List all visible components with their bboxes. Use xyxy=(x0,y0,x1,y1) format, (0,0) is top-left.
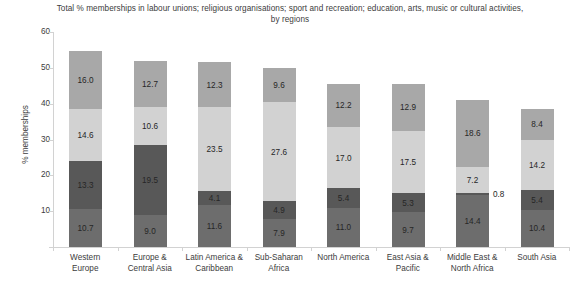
stacked-bar-chart: Total % memberships in labour unions; re… xyxy=(0,0,576,293)
bar-segment-value-label: 10.6 xyxy=(134,121,167,130)
bar-segment-value-label: 14.6 xyxy=(69,130,102,139)
bar-segment[interactable]: 9.0 xyxy=(134,215,167,247)
bar-segment[interactable]: 14.2 xyxy=(521,140,554,191)
bar-segment-value-label: 4.1 xyxy=(198,194,231,203)
bar-group[interactable]: 18.67.20.814.4 xyxy=(440,32,505,247)
bar-segment[interactable]: 27.6 xyxy=(263,102,296,201)
bar-segment[interactable]: 16.0 xyxy=(69,51,102,108)
x-axis-category-labels: WesternEuropeEurope &Central AsiaLatin A… xyxy=(53,252,569,290)
bar-segment-value-label: 7.2 xyxy=(456,175,489,184)
bar-segment[interactable]: 10.6 xyxy=(134,107,167,145)
bar-segment-value-label: 5.3 xyxy=(392,198,425,207)
bar-group[interactable]: 8.414.25.410.4 xyxy=(505,32,570,247)
bar-segment[interactable]: 19.5 xyxy=(134,145,167,215)
bar-segment[interactable]: 12.7 xyxy=(134,61,167,107)
bar-segment-value-label: 8.4 xyxy=(521,120,554,129)
bar-segment-value-label: 14.2 xyxy=(521,160,554,169)
bar-segment[interactable]: 12.2 xyxy=(327,84,360,128)
x-category-label: Latin America &Caribbean xyxy=(182,252,247,274)
bar-group[interactable]: 9.627.64.97.9 xyxy=(247,32,312,247)
bar-segment[interactable]: 14.6 xyxy=(69,109,102,161)
bar-group[interactable]: 12.917.55.39.7 xyxy=(376,32,441,247)
bar-segment[interactable]: 13.3 xyxy=(69,161,102,209)
bar-segment[interactable]: 7.9 xyxy=(263,219,296,247)
bar-segment[interactable]: 4.1 xyxy=(198,191,231,206)
bar-segment[interactable]: 17.5 xyxy=(392,131,425,194)
y-tick-label: 30 xyxy=(10,135,50,144)
bar-segment-value-label: 19.5 xyxy=(134,175,167,184)
x-tick-mark xyxy=(247,247,248,251)
bar-segment-value-label: 16.0 xyxy=(69,76,102,85)
bar-segment[interactable]: 5.3 xyxy=(392,193,425,212)
bar-group[interactable]: 12.217.05.411.0 xyxy=(311,32,376,247)
bar-stack[interactable]: 9.627.64.97.9 xyxy=(263,68,296,247)
x-tick-mark xyxy=(569,247,570,251)
bar-segment-value-label: 13.3 xyxy=(69,180,102,189)
bar-segment[interactable]: 18.6 xyxy=(456,100,489,167)
bar-segment[interactable]: 10.4 xyxy=(521,210,554,247)
bar-segment-value-label: 4.9 xyxy=(263,205,296,214)
x-category-line: North America xyxy=(317,253,369,262)
bar-segment[interactable]: 17.0 xyxy=(327,127,360,188)
bar-segment[interactable]: 9.6 xyxy=(263,68,296,102)
bar-segment[interactable]: 12.9 xyxy=(392,84,425,130)
bar-segment-value-label: 11.0 xyxy=(327,223,360,232)
x-tick-mark xyxy=(118,247,119,251)
x-tick-mark xyxy=(311,247,312,251)
x-category-line: Middle East & xyxy=(447,253,498,262)
bar-segment[interactable]: 14.4 xyxy=(456,195,489,247)
bar-stack[interactable]: 16.014.613.310.7 xyxy=(69,51,102,247)
bar-segment[interactable]: 23.5 xyxy=(198,107,231,191)
x-category-line: Europe & xyxy=(133,253,167,262)
x-category-line: Caribbean xyxy=(195,264,233,273)
x-category-line: Pacific xyxy=(396,264,420,273)
bar-segment-value-label: 5.4 xyxy=(327,193,360,202)
bar-stack[interactable]: 12.217.05.411.0 xyxy=(327,84,360,247)
bars-layer: 16.014.613.310.712.710.619.59.012.323.54… xyxy=(53,32,569,247)
bar-segment[interactable]: 11.0 xyxy=(327,208,360,247)
bar-group[interactable]: 16.014.613.310.7 xyxy=(53,32,118,247)
x-category-label: North America xyxy=(311,252,376,263)
bar-segment-value-label: 12.7 xyxy=(134,80,167,89)
x-category-line: Latin America & xyxy=(186,253,243,262)
y-tick-label: 50 xyxy=(10,63,50,72)
x-tick-mark xyxy=(376,247,377,251)
bar-segment[interactable]: 8.4 xyxy=(521,109,554,139)
bar-segment-value-label: 10.4 xyxy=(521,224,554,233)
bar-segment[interactable]: 7.2 xyxy=(456,167,489,193)
x-category-line: Sub-Saharan xyxy=(255,253,303,262)
bar-segment-value-label: 9.6 xyxy=(263,81,296,90)
bar-stack[interactable]: 12.917.55.39.7 xyxy=(392,84,425,247)
bar-segment-value-label: 27.6 xyxy=(263,147,296,156)
bar-segment[interactable]: 5.4 xyxy=(521,190,554,209)
x-category-label: Europe &Central Asia xyxy=(118,252,183,274)
bar-stack[interactable]: 12.710.619.59.0 xyxy=(134,61,167,247)
x-category-line: East Asia & xyxy=(387,253,429,262)
bar-segment-value-label: 9.7 xyxy=(392,225,425,234)
x-category-label: Sub-SaharanAfrica xyxy=(247,252,312,274)
bar-segment-value-label: 18.6 xyxy=(456,129,489,138)
bar-segment[interactable]: 5.4 xyxy=(327,188,360,207)
bar-stack[interactable]: 8.414.25.410.4 xyxy=(521,109,554,247)
bar-stack[interactable]: 18.67.20.814.4 xyxy=(456,100,489,247)
x-tick-mark xyxy=(53,247,54,251)
bar-segment-value-label: 11.6 xyxy=(198,222,231,231)
bar-segment[interactable]: 10.7 xyxy=(69,209,102,247)
bar-segment[interactable]: 11.6 xyxy=(198,205,231,247)
bar-stack[interactable]: 12.323.54.111.6 xyxy=(198,62,231,247)
x-category-line: Central Asia xyxy=(128,264,172,273)
x-category-label: WesternEurope xyxy=(53,252,118,274)
bar-group[interactable]: 12.710.619.59.0 xyxy=(118,32,183,247)
chart-title: Total % memberships in labour unions; re… xyxy=(52,3,528,25)
x-category-line: Europe xyxy=(72,264,98,273)
bar-segment[interactable]: 4.9 xyxy=(263,201,296,219)
y-tick-label: 60 xyxy=(10,27,50,36)
bar-segment-value-label: 17.5 xyxy=(392,157,425,166)
bar-segment-value-label: 7.9 xyxy=(263,228,296,237)
bar-segment[interactable]: 12.3 xyxy=(198,62,231,106)
bar-segment-value-label: 5.4 xyxy=(521,196,554,205)
bar-segment-value-label: 12.9 xyxy=(392,103,425,112)
bar-segment[interactable]: 9.7 xyxy=(392,212,425,247)
bar-group[interactable]: 12.323.54.111.6 xyxy=(182,32,247,247)
x-category-line: Africa xyxy=(268,264,289,273)
